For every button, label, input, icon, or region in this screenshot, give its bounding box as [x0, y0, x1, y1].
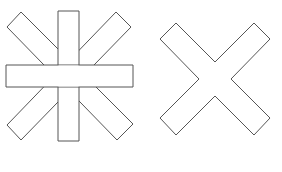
x-icon — [160, 23, 270, 135]
asterisk-center-fill — [59, 66, 79, 87]
asterisk-icon — [6, 11, 133, 141]
diagram-canvas — [0, 0, 282, 172]
